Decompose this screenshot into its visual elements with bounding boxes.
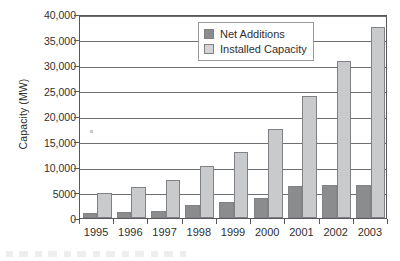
- bar-net-additions: [356, 185, 371, 218]
- legend-label-net-additions: Net Additions: [220, 28, 285, 40]
- y-tick-label: 10,000: [2, 163, 76, 173]
- y-tick-label: 40,000: [2, 10, 76, 20]
- x-tick-label: 2003: [358, 226, 382, 238]
- bar-installed-capacity: [166, 180, 181, 218]
- y-tick-label: 25,000: [2, 87, 76, 97]
- x-tick-label: 2000: [255, 226, 279, 238]
- legend-item-installed-capacity: Installed Capacity: [204, 41, 307, 56]
- y-tick-label: 5000: [2, 189, 76, 199]
- x-tick-label: 2002: [323, 226, 347, 238]
- y-tick-label: 35,000: [2, 36, 76, 46]
- y-tick-label: 15,000: [2, 138, 76, 148]
- x-tick-mark: [353, 219, 354, 224]
- bar-installed-capacity: [97, 193, 112, 218]
- bar-installed-capacity: [268, 129, 283, 218]
- x-axis-ticks: [79, 219, 387, 225]
- x-tick-mark: [113, 219, 114, 224]
- bar-installed-capacity: [234, 152, 249, 218]
- bar-net-additions: [254, 198, 269, 218]
- x-tick-label: 1995: [84, 226, 108, 238]
- bar-chart-figure: Capacity (MW) 0500010,00015,00020,00025,…: [0, 0, 400, 261]
- bar-installed-capacity: [131, 187, 146, 218]
- legend-label-installed-capacity: Installed Capacity: [220, 43, 307, 55]
- legend-swatch-installed-capacity: [204, 44, 214, 54]
- x-tick-label: 1999: [221, 226, 245, 238]
- scan-artifact: [6, 251, 186, 257]
- x-tick-label: 1996: [118, 226, 142, 238]
- legend-swatch-net-additions: [204, 29, 214, 39]
- x-tick-label: 2001: [289, 226, 313, 238]
- x-tick-mark: [284, 219, 285, 224]
- bar-group: [320, 16, 354, 218]
- x-tick-label: 1998: [187, 226, 211, 238]
- x-tick-mark: [250, 219, 251, 224]
- y-tick-label: 0: [2, 214, 76, 224]
- bar-group: [114, 16, 148, 218]
- bar-group: [354, 16, 388, 218]
- x-tick-mark: [387, 219, 388, 224]
- chart-legend: Net Additions Installed Capacity: [198, 22, 314, 61]
- x-tick-mark: [319, 219, 320, 224]
- x-tick-mark: [79, 219, 80, 224]
- scan-speck: [90, 130, 93, 133]
- x-tick-mark: [182, 219, 183, 224]
- legend-item-net-additions: Net Additions: [204, 26, 307, 41]
- plot-area: Net Additions Installed Capacity: [79, 15, 387, 219]
- bar-net-additions: [322, 185, 337, 218]
- bar-group: [148, 16, 182, 218]
- x-tick-mark: [216, 219, 217, 224]
- bar-installed-capacity: [302, 96, 317, 218]
- bar-installed-capacity: [337, 61, 352, 218]
- y-tick-label: 30,000: [2, 61, 76, 71]
- bar-group: [80, 16, 114, 218]
- bar-net-additions: [83, 213, 98, 218]
- x-tick-mark: [147, 219, 148, 224]
- bar-net-additions: [185, 205, 200, 218]
- y-tick-label: 20,000: [2, 112, 76, 122]
- bar-net-additions: [288, 186, 303, 218]
- y-axis-tick-labels: 0500010,00015,00020,00025,00030,00035,00…: [0, 15, 76, 219]
- bar-net-additions: [219, 202, 234, 218]
- x-axis-tick-labels: 199519961997199819992000200120022003: [79, 226, 387, 242]
- bar-installed-capacity: [200, 166, 215, 218]
- bar-net-additions: [117, 212, 132, 218]
- bar-installed-capacity: [371, 27, 386, 218]
- bar-net-additions: [151, 211, 166, 218]
- x-tick-label: 1997: [152, 226, 176, 238]
